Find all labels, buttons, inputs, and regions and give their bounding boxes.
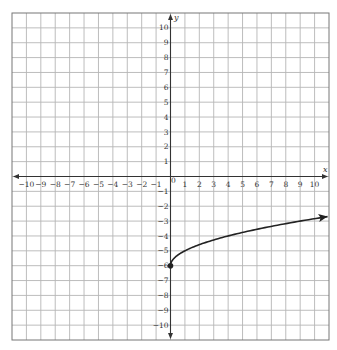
x-tick-label: −6: [79, 180, 90, 189]
x-axis-label: x: [323, 165, 328, 174]
x-tick-label: 6: [255, 180, 260, 189]
y-tick-label: −1: [157, 187, 168, 196]
function-curve: [168, 214, 328, 268]
y-tick-label: −7: [157, 276, 168, 285]
x-tick-label: 2: [197, 180, 202, 189]
x-axis-right-arrow-icon: [322, 174, 328, 179]
x-tick-label: −4: [107, 180, 118, 189]
x-tick-label: 4: [226, 180, 231, 189]
coordinate-plane: −10−9−8−7−6−5−4−3−2−10123456789101098765…: [0, 0, 337, 350]
y-tick-label: −2: [157, 202, 168, 211]
y-axis-down-arrow-icon: [168, 333, 173, 339]
y-tick-label: 9: [164, 38, 169, 47]
y-tick-label: −10: [153, 321, 169, 330]
y-tick-label: −6: [157, 261, 168, 270]
y-tick-label: 10: [159, 23, 169, 32]
x-tick-label: 8: [283, 180, 288, 189]
x-tick-label: 0: [171, 176, 176, 185]
start-point-dot: [168, 263, 174, 269]
y-tick-label: −4: [157, 232, 168, 241]
x-tick-label: 9: [298, 180, 303, 189]
y-tick-label: 5: [164, 98, 169, 107]
x-tick-label: 10: [310, 180, 320, 189]
y-tick-label: 3: [164, 128, 169, 137]
x-tick-label: −10: [18, 180, 34, 189]
x-tick-label: −3: [122, 180, 133, 189]
x-tick-label: −5: [93, 180, 104, 189]
y-tick-label: −9: [157, 306, 168, 315]
x-tick-label: −8: [50, 180, 61, 189]
x-tick-label: 7: [269, 180, 274, 189]
x-tick-label: −2: [136, 180, 147, 189]
y-tick-label: 8: [164, 53, 169, 62]
y-axis-up-arrow-icon: [168, 14, 173, 20]
y-tick-label: 4: [164, 113, 169, 122]
x-tick-label: 1: [183, 180, 188, 189]
y-tick-label: 1: [164, 157, 169, 166]
x-tick-label: −9: [35, 180, 46, 189]
x-tick-label: 3: [211, 180, 216, 189]
y-tick-label: 6: [164, 83, 169, 92]
y-axis-label: y: [173, 13, 179, 22]
y-tick-label: 2: [164, 142, 169, 151]
y-tick-label: −5: [157, 246, 168, 255]
x-tick-label: 5: [240, 180, 245, 189]
y-tick-label: −8: [157, 291, 168, 300]
curve-path: [171, 217, 328, 266]
x-axis-left-arrow-icon: [13, 174, 19, 179]
y-tick-label: 7: [164, 68, 169, 77]
y-tick-label: −3: [157, 217, 168, 226]
x-tick-label: −7: [64, 180, 75, 189]
